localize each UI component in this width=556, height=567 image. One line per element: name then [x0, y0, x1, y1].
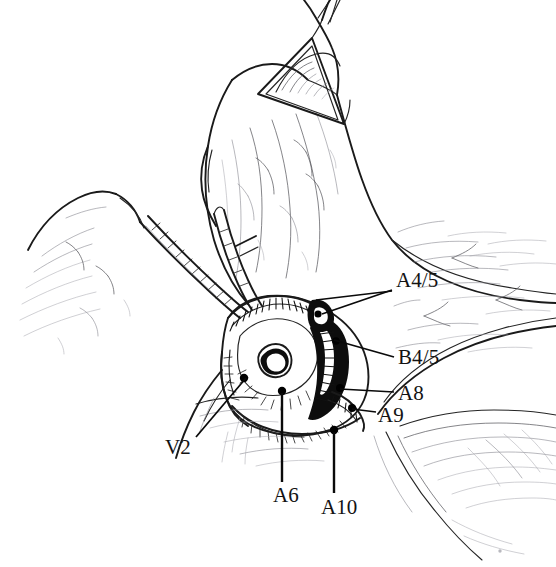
anatomical-figure: A4/5B4/5A8A9V2A6A10: [0, 0, 556, 567]
label-a8: A8: [398, 383, 424, 404]
figure-background: [0, 0, 556, 567]
label-a10: A10: [321, 497, 357, 518]
marker-dot-a4-5: [314, 310, 321, 317]
illustration-canvas: [0, 0, 556, 567]
scan-speck: [498, 549, 501, 552]
label-a4-5: A4/5: [396, 270, 438, 291]
label-b4-5: B4/5: [398, 347, 439, 368]
label-v2: V2: [165, 437, 191, 458]
label-a9: A9: [378, 405, 404, 426]
marker-dot-a9: [348, 404, 356, 412]
marker-dot-a8: [336, 384, 344, 392]
label-a6: A6: [273, 485, 299, 506]
